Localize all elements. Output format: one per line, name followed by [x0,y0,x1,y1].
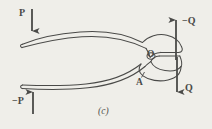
figure-caption: (c) [98,107,109,117]
pivot-label-O: O [147,50,154,60]
point-label-A: A [136,78,143,88]
force-label-Q: Q [185,83,193,93]
upper-handle [20,32,146,49]
lower-handle [21,64,145,90]
figure-container: P −P −Q Q O A (c) [0,0,212,129]
force-label-P: P [19,8,25,18]
force-label-negative-Q: −Q [182,16,195,26]
force-label-negative-P: −P [12,96,24,106]
